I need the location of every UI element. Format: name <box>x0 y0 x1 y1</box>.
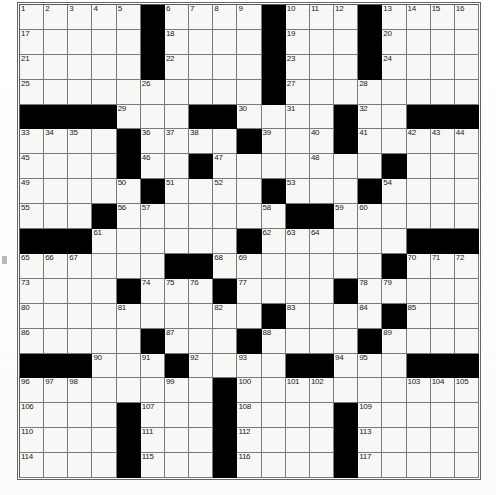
letter-cell[interactable]: 5 <box>117 5 141 30</box>
letter-cell[interactable] <box>189 30 213 55</box>
letter-cell[interactable] <box>213 80 237 105</box>
letter-cell[interactable]: 70 <box>407 254 431 279</box>
letter-cell[interactable] <box>213 204 237 229</box>
letter-cell[interactable] <box>92 453 116 478</box>
letter-cell[interactable] <box>334 229 358 254</box>
letter-cell[interactable]: 13 <box>382 5 406 30</box>
letter-cell[interactable]: 110 <box>20 428 44 453</box>
letter-cell[interactable] <box>92 329 116 354</box>
letter-cell[interactable] <box>141 254 165 279</box>
letter-cell[interactable] <box>92 254 116 279</box>
letter-cell[interactable] <box>455 279 479 304</box>
letter-cell[interactable] <box>310 30 334 55</box>
letter-cell[interactable] <box>165 229 189 254</box>
letter-cell[interactable] <box>455 428 479 453</box>
letter-cell[interactable] <box>334 80 358 105</box>
letter-cell[interactable] <box>262 254 286 279</box>
letter-cell[interactable] <box>44 30 68 55</box>
letter-cell[interactable] <box>262 428 286 453</box>
letter-cell[interactable] <box>213 30 237 55</box>
letter-cell[interactable] <box>165 428 189 453</box>
letter-cell[interactable]: 27 <box>286 80 310 105</box>
letter-cell[interactable] <box>358 229 382 254</box>
letter-cell[interactable]: 51 <box>165 179 189 204</box>
letter-cell[interactable] <box>141 105 165 130</box>
letter-cell[interactable] <box>382 354 406 379</box>
letter-cell[interactable] <box>262 154 286 179</box>
letter-cell[interactable] <box>382 428 406 453</box>
letter-cell[interactable]: 53 <box>286 179 310 204</box>
letter-cell[interactable]: 74 <box>141 279 165 304</box>
letter-cell[interactable] <box>334 154 358 179</box>
letter-cell[interactable] <box>382 453 406 478</box>
letter-cell[interactable]: 65 <box>20 254 44 279</box>
letter-cell[interactable] <box>455 179 479 204</box>
letter-cell[interactable] <box>117 378 141 403</box>
letter-cell[interactable]: 30 <box>237 105 261 130</box>
letter-cell[interactable]: 32 <box>358 105 382 130</box>
letter-cell[interactable]: 33 <box>20 129 44 154</box>
letter-cell[interactable] <box>407 329 431 354</box>
letter-cell[interactable]: 15 <box>431 5 455 30</box>
letter-cell[interactable]: 106 <box>20 403 44 428</box>
letter-cell[interactable] <box>407 428 431 453</box>
letter-cell[interactable] <box>117 55 141 80</box>
letter-cell[interactable] <box>382 229 406 254</box>
letter-cell[interactable]: 55 <box>20 204 44 229</box>
letter-cell[interactable] <box>165 204 189 229</box>
letter-cell[interactable]: 45 <box>20 154 44 179</box>
letter-cell[interactable]: 3 <box>68 5 92 30</box>
letter-cell[interactable]: 49 <box>20 179 44 204</box>
letter-cell[interactable] <box>213 229 237 254</box>
letter-cell[interactable] <box>286 279 310 304</box>
letter-cell[interactable] <box>189 453 213 478</box>
letter-cell[interactable]: 78 <box>358 279 382 304</box>
letter-cell[interactable] <box>431 204 455 229</box>
letter-cell[interactable]: 39 <box>262 129 286 154</box>
letter-cell[interactable]: 25 <box>20 80 44 105</box>
letter-cell[interactable] <box>92 378 116 403</box>
letter-cell[interactable] <box>334 179 358 204</box>
letter-cell[interactable] <box>382 403 406 428</box>
letter-cell[interactable]: 50 <box>117 179 141 204</box>
letter-cell[interactable] <box>455 80 479 105</box>
letter-cell[interactable]: 20 <box>382 30 406 55</box>
letter-cell[interactable] <box>92 30 116 55</box>
letter-cell[interactable] <box>262 279 286 304</box>
letter-cell[interactable] <box>141 229 165 254</box>
letter-cell[interactable] <box>431 30 455 55</box>
letter-cell[interactable] <box>286 254 310 279</box>
letter-cell[interactable]: 22 <box>165 55 189 80</box>
letter-cell[interactable]: 84 <box>358 304 382 329</box>
letter-cell[interactable] <box>407 30 431 55</box>
letter-cell[interactable] <box>358 254 382 279</box>
letter-cell[interactable] <box>68 80 92 105</box>
letter-cell[interactable] <box>455 453 479 478</box>
letter-cell[interactable]: 8 <box>213 5 237 30</box>
letter-cell[interactable]: 73 <box>20 279 44 304</box>
letter-cell[interactable]: 101 <box>286 378 310 403</box>
letter-cell[interactable]: 93 <box>237 354 261 379</box>
letter-cell[interactable] <box>310 179 334 204</box>
letter-cell[interactable]: 86 <box>20 329 44 354</box>
letter-cell[interactable] <box>310 105 334 130</box>
letter-cell[interactable]: 94 <box>334 354 358 379</box>
letter-cell[interactable]: 47 <box>213 154 237 179</box>
letter-cell[interactable] <box>286 154 310 179</box>
letter-cell[interactable]: 18 <box>165 30 189 55</box>
letter-cell[interactable]: 62 <box>262 229 286 254</box>
letter-cell[interactable] <box>92 80 116 105</box>
letter-cell[interactable] <box>117 80 141 105</box>
letter-cell[interactable]: 9 <box>237 5 261 30</box>
letter-cell[interactable]: 43 <box>431 129 455 154</box>
letter-cell[interactable] <box>431 80 455 105</box>
letter-cell[interactable]: 31 <box>286 105 310 130</box>
letter-cell[interactable] <box>117 30 141 55</box>
letter-cell[interactable] <box>407 80 431 105</box>
letter-cell[interactable]: 80 <box>20 304 44 329</box>
letter-cell[interactable] <box>189 179 213 204</box>
letter-cell[interactable]: 68 <box>213 254 237 279</box>
letter-cell[interactable] <box>358 154 382 179</box>
letter-cell[interactable] <box>407 279 431 304</box>
letter-cell[interactable] <box>382 129 406 154</box>
